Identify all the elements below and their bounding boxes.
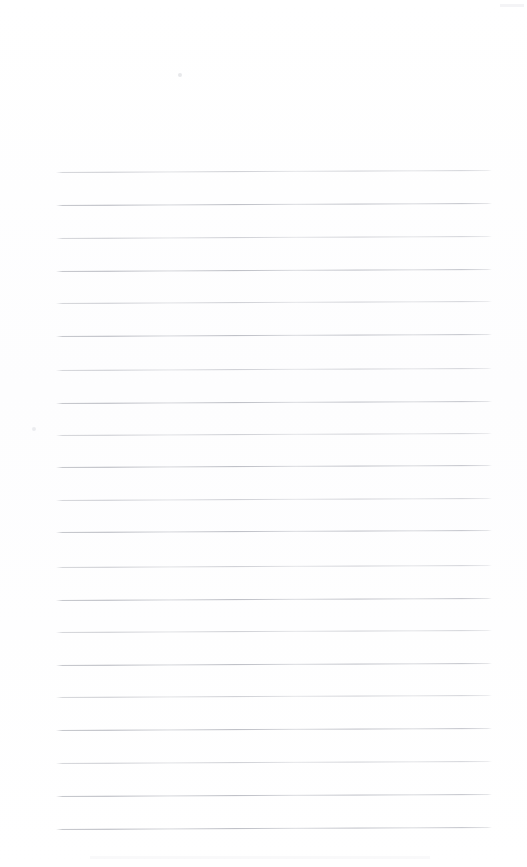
rule-line-10 [56,465,492,468]
rule-line-14 [56,598,492,601]
rule-line-17 [56,695,492,698]
rule-line-6 [56,334,492,337]
rule-line-12 [56,530,492,533]
rule-line-21 [56,827,492,830]
rule-line-20 [56,794,492,797]
rule-line-15 [56,630,492,633]
rule-line-19 [56,761,492,764]
rule-line-1 [56,170,492,173]
rule-line-2 [56,203,492,206]
scan-edge-shadow-bottom [90,856,430,859]
rule-line-13 [56,565,492,568]
ruled-lines-layer [0,0,527,867]
scan-speck-left-margin [32,427,36,431]
rule-line-5 [56,301,492,304]
rule-line-3 [56,236,492,239]
rule-line-9 [56,433,492,436]
rule-line-16 [56,663,492,666]
scan-edge-shadow-top-right [500,4,524,7]
rule-line-11 [56,498,492,501]
rule-line-7 [56,368,492,371]
scan-speck-top-center [178,73,182,77]
scanned-page [0,0,527,867]
rule-line-8 [56,401,492,404]
rule-line-4 [56,269,492,272]
rule-line-18 [56,728,492,731]
